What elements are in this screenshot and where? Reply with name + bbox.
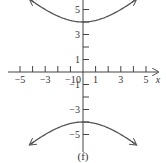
x-tick-label: −3	[40, 74, 51, 85]
y-tick-label: 1	[75, 54, 80, 65]
y-tick-label: 5	[75, 4, 80, 15]
axes	[8, 0, 158, 152]
x-axis-label: x	[155, 74, 161, 85]
y-tick-label: −3	[69, 104, 80, 115]
x-tick-label: 3	[118, 74, 123, 85]
labels: −5−3−1135531−1−3−50x(f)	[15, 4, 161, 163]
curve-arrow-icon	[132, 0, 136, 2]
y-tick-label: 3	[75, 29, 80, 40]
origin-label: 0	[76, 74, 81, 85]
curve-arrow-icon	[30, 0, 34, 2]
x-tick-label: −5	[15, 74, 26, 85]
figure-caption: (f)	[78, 150, 89, 163]
curve-arrow-icon	[132, 142, 136, 145]
curve-arrow-icon	[30, 142, 34, 145]
x-tick-label: 5	[144, 74, 149, 85]
y-tick-label: −5	[69, 129, 80, 140]
x-tick-label: 1	[93, 74, 98, 85]
hyperbola-plot: −5−3−1135531−1−3−50x(f)	[0, 0, 166, 163]
